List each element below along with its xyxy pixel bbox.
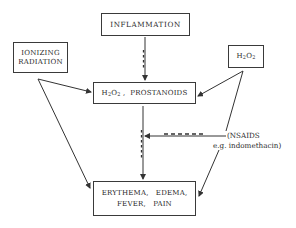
- node-h2o2-source: H2O2: [228, 45, 264, 68]
- node-inflammation: INFLAMMATION: [101, 13, 190, 36]
- arrow-radiation-to-symptoms: [38, 79, 90, 188]
- inhibitor-label-line1: (NSAIDS: [227, 131, 260, 140]
- node-mediators-label: H2O2 , PROSTANOIDS: [102, 89, 188, 98]
- inhibitor-label-line2: e.g. indomethacin): [213, 141, 281, 150]
- arrow-h2o2-to-symptoms: [199, 150, 219, 196]
- node-symptoms-line1: ERYTHEMA, EDEMA,: [102, 189, 188, 198]
- arrow-h2o2-to-mediators: [198, 71, 243, 96]
- node-symptoms: ERYTHEMA, EDEMA, FEVER, PAIN: [93, 181, 196, 216]
- node-ionizing-line1: IONIZING: [21, 49, 59, 58]
- line-h2o2-down: [226, 71, 243, 131]
- node-h2o2-label: H2O2: [236, 52, 255, 61]
- node-symptoms-line2: FEVER, PAIN: [117, 200, 172, 209]
- diagram-canvas: INFLAMMATION IONIZING RADIATION H2O2 H2O…: [0, 0, 296, 228]
- node-ionizing-line2: RADIATION: [18, 58, 62, 67]
- node-mediators: H2O2 , PROSTANOIDS: [93, 82, 196, 104]
- node-inflammation-label: INFLAMMATION: [110, 20, 181, 29]
- node-ionizing-radiation: IONIZING RADIATION: [13, 42, 68, 73]
- arrow-radiation-to-mediators: [38, 79, 91, 92]
